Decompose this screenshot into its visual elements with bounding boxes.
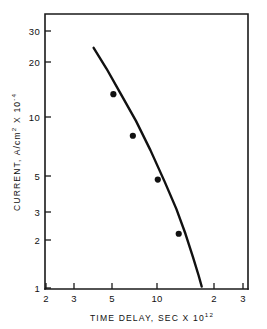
y-ticklabel-1: 1	[34, 283, 40, 294]
x-axis-title-exponent: 12	[205, 311, 214, 318]
y-axis-title-exponent: -4	[10, 93, 17, 101]
y-axis-title-tail: X 10	[12, 101, 22, 127]
x-ticklabel-20: 2	[211, 293, 217, 304]
x-ticklabel-5: 5	[109, 293, 115, 304]
y-ticklabel-30: 30	[29, 26, 40, 37]
fitted-curve	[94, 48, 202, 287]
x-ticklabel-2: 2	[43, 293, 49, 304]
y-ticklabel-10: 10	[29, 112, 40, 123]
y-axis-ticks	[45, 31, 51, 288]
y-ticklabel-3: 3	[34, 207, 40, 218]
y-ticklabel-20: 20	[29, 57, 40, 68]
plot-frame	[45, 14, 248, 289]
x-axis-tick-labels: 2 3 5 10 2 3	[43, 293, 246, 304]
x-ticklabel-10: 10	[151, 293, 162, 304]
y-axis-title-text: CURRENT, A/cm	[12, 131, 22, 211]
x-ticklabel-30: 3	[240, 293, 246, 304]
y-ticklabel-5: 5	[34, 171, 40, 182]
y-axis-tick-labels: 30 20 10 5 3 2 1	[29, 26, 40, 294]
figure-container: 30 20 10 5 3 2 1 2 3 5 10 2 3	[0, 0, 267, 329]
y-ticklabel-2: 2	[34, 235, 40, 246]
data-points	[110, 91, 182, 237]
data-point	[155, 176, 161, 182]
data-point	[130, 133, 136, 139]
y-axis-title: CURRENT, A/cm2 X 10-4	[10, 93, 22, 211]
x-ticklabel-3: 3	[71, 293, 77, 304]
x-axis-ticks	[46, 283, 243, 289]
data-point	[176, 231, 182, 237]
log-log-chart: 30 20 10 5 3 2 1 2 3 5 10 2 3	[0, 0, 267, 329]
data-point	[110, 91, 116, 97]
x-axis-title: TIME DELAY, SEC X 1012	[90, 311, 214, 323]
x-axis-title-text: TIME DELAY, SEC X 10	[90, 313, 205, 323]
